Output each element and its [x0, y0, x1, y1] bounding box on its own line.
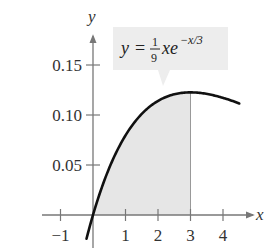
y-tick-label: 0.15: [52, 56, 82, 75]
y-tick-label: 0.10: [52, 106, 82, 125]
equation-callout: y = 1 9 xe −x/3: [113, 27, 228, 86]
x-tick-label: 4: [219, 226, 228, 245]
y-tick-label: 0.05: [52, 156, 82, 175]
eq-frac-den: 9: [151, 51, 157, 65]
chart: −11234 0.050.100.15 x y y = 1 9 xe −x/3: [0, 0, 268, 250]
eq-body: xe: [161, 38, 178, 58]
x-tick-label: 1: [121, 226, 130, 245]
x-tick-label: 2: [154, 226, 163, 245]
eq-equals: =: [135, 38, 145, 58]
eq-frac-num: 1: [152, 35, 158, 49]
eq-exponent: −x/3: [180, 33, 203, 47]
y-axis-label: y: [86, 7, 96, 26]
eq-lhs: y: [119, 38, 129, 58]
x-axis-label: x: [255, 205, 264, 224]
x-tick-label: −1: [51, 226, 69, 245]
x-tick-label: 3: [186, 226, 195, 245]
shaded-area: [93, 92, 191, 215]
